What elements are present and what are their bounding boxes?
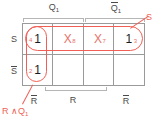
column-group-label-not-q1: Q1 <box>106 2 126 14</box>
row-label-s: S <box>7 35 21 44</box>
column-group-label-q1-text: Q <box>49 2 56 12</box>
bracket-not-q1-columns <box>85 18 145 22</box>
column-group-label-not-q1-subscript: 1 <box>118 8 121 14</box>
annotation-r-and-q1-subscript: 1 <box>25 111 28 117</box>
column-label-r-middle: R <box>62 95 84 105</box>
column-label-not-r-right-text: R <box>123 95 130 106</box>
annotation-r-and-q1-text: R ∧Q <box>2 106 25 116</box>
row-label-s-text: S <box>11 34 17 44</box>
row-label-not-s: S <box>7 66 21 76</box>
column-group-label-q1-subscript: 1 <box>56 7 59 13</box>
column-group-label-q1: Q1 <box>44 2 64 13</box>
column-group-label-not-q1-text: Q <box>111 2 118 13</box>
annotation-r-and-q1: R ∧Q1 <box>2 106 28 117</box>
column-label-not-r-right: R <box>115 95 137 106</box>
row-label-not-s-text: S <box>11 66 17 76</box>
bracket-r-columns <box>45 87 107 91</box>
bracket-q1-columns <box>23 18 84 22</box>
kmap-cell-r1c2[interactable] <box>84 55 114 86</box>
column-label-not-r-left-text: R <box>31 95 38 106</box>
kmap-cell-r1c3[interactable] <box>114 55 144 86</box>
kmap-diagram: Q1 Q1 S S 4 1 8 X 7 X 3 1 2 1 <box>0 0 160 123</box>
column-label-r-middle-text: R <box>70 95 77 105</box>
group-oval-r-and-q1 <box>26 26 47 82</box>
kmap-cell-r1c1[interactable] <box>53 55 83 86</box>
annotation-s: S <box>146 12 152 22</box>
